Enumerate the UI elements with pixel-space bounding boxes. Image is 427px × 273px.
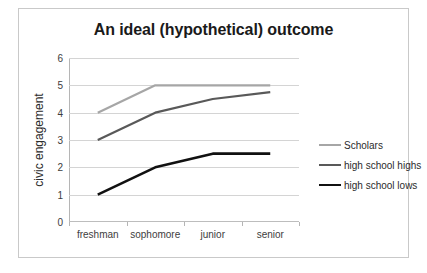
legend-item: Scholars [319,135,421,155]
x-axis-tick [69,222,70,226]
series-lines [69,58,299,222]
x-axis-tick [184,222,185,226]
x-axis-tick [299,222,300,226]
x-axis-tick-label: sophomore [130,229,180,240]
legend-swatch-icon [319,144,341,146]
series-line [98,154,271,195]
legend-item: high school highs [319,155,421,175]
legend-item-label: high school highs [344,160,421,171]
x-axis-tick-label: senior [257,229,284,240]
legend-item: high school lows [319,175,421,195]
x-axis-tick [127,222,128,226]
y-axis-tick-label: 0 [57,217,63,228]
y-axis-tick-label: 6 [57,53,63,64]
plot-area: 0123456 freshmansophomorejuniorsenior [69,58,299,222]
legend-item-label: Scholars [344,140,383,151]
y-axis-title-label: civic engagement [32,93,46,186]
legend-swatch-icon [319,164,341,166]
x-axis-tick-label: freshman [77,229,119,240]
chart-frame: An ideal (hypothetical) outcome civic en… [18,8,409,258]
y-axis-tick-label: 1 [57,189,63,200]
y-axis-tick-label: 3 [57,135,63,146]
series-line [98,85,271,112]
y-axis-tick-label: 2 [57,162,63,173]
y-axis-tick-label: 4 [57,107,63,118]
chart-title: An ideal (hypothetical) outcome [19,21,408,39]
legend-item-label: high school lows [344,180,417,191]
chart-legend: Scholarshigh school highshigh school low… [319,135,421,195]
y-axis-title: civic engagement [31,58,47,222]
y-axis-tick-label: 5 [57,80,63,91]
x-axis-tick-label: junior [201,229,225,240]
x-axis-tick [242,222,243,226]
legend-swatch-icon [319,184,341,186]
